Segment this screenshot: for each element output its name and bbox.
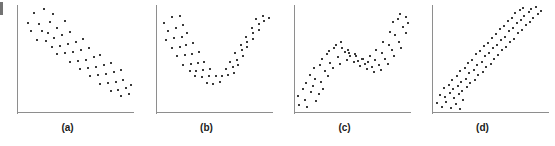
scatter-point [184,54,186,56]
scatter-point [245,36,247,38]
scatter-point [237,64,239,66]
scatter-point [45,40,47,42]
scatter-point [405,32,407,34]
scatter-point [339,63,341,65]
scatter-point [511,17,513,19]
scatter-point [192,42,194,44]
scatter-point [333,47,335,49]
scatter-point [378,64,380,66]
scatter-point [182,24,184,26]
scatter-point [251,27,253,29]
scatter-point [504,36,506,38]
scatter-point [179,15,181,17]
scatter-point [505,46,507,48]
scatter-point [298,104,300,106]
scatter-point [501,49,503,51]
scatter-point [484,55,486,57]
scatter-point [120,69,122,71]
scatter-point [43,8,45,10]
scatter-point [38,23,40,25]
scatter-point [439,94,441,96]
scatter-point [305,82,307,84]
scatter-point [233,72,235,74]
scatter-point [366,68,368,70]
scatter-point [357,60,359,62]
plot-area-c [295,5,411,113]
scatter-point [64,52,66,54]
scatter-point [449,92,451,94]
scatter-point [467,62,469,64]
scatter-point [77,60,79,62]
scatter-point [67,43,69,45]
scatter-point [186,32,188,34]
scatter-point [359,65,361,67]
scatter-point [191,53,193,55]
scatter-point [530,8,532,10]
scatter-point [473,69,475,71]
scatter-point [477,74,479,76]
scatter-point [465,78,467,80]
scatter-point [310,91,312,93]
scatter-point [64,20,66,22]
scatter-point [246,46,248,48]
scatter-point [525,24,527,26]
scatter-point [451,79,453,81]
scatter-point [107,82,109,84]
scatter-point [448,84,450,86]
scatter-point [479,50,481,52]
scatter-point [471,59,473,61]
scatter-point [346,59,348,61]
scatter-point [452,88,454,90]
panel-label-c: (c) [277,122,412,133]
scatter-point [297,95,299,97]
scatter-point [252,38,254,40]
scatter-point [399,13,401,15]
scatter-point [497,54,499,56]
scatter-point [201,76,203,78]
scatter-point [523,15,525,17]
scatter-point [69,61,71,63]
scatter-point [517,32,519,34]
scatter-point [458,93,460,95]
scatter-point [242,55,244,57]
scatter-point [503,25,505,27]
panel-label-a: (a) [0,122,135,133]
scatter-point [353,61,355,63]
scatter-point [130,84,132,86]
scatter-point [117,89,119,91]
scatter-point [302,88,304,90]
scatter-point [474,79,476,81]
scatter-point [529,21,531,23]
scatter-point [450,107,452,109]
plot-area-d [433,5,549,113]
scatter-point [56,27,58,29]
scatter-point [337,56,339,58]
plot-area-a [18,5,134,113]
scatter-point [197,62,199,64]
scatter-point [69,31,71,33]
scatter-point [99,83,101,85]
scatter-point [80,49,82,51]
scatter-point [41,30,43,32]
scatter-point [165,39,167,41]
scatter-point [314,78,316,80]
scatter-point [59,45,61,47]
scatter-point [258,29,260,31]
scatter-point [52,13,54,15]
scatter-point [521,29,523,31]
scatter-point [349,55,351,57]
scatter-point [219,81,221,83]
scatter-point [268,17,270,19]
scatter-point [392,21,394,23]
scatter-point [344,51,346,53]
scatter-point [176,55,178,57]
scatter-point [315,100,317,102]
scatter-point [528,11,530,13]
scatter-point [128,93,130,95]
scatter-point [120,95,122,97]
scatter-point [227,74,229,76]
scatter-point [203,61,205,63]
scatter-point [444,96,446,98]
scatter-point [198,51,200,53]
scatter-point [212,83,214,85]
